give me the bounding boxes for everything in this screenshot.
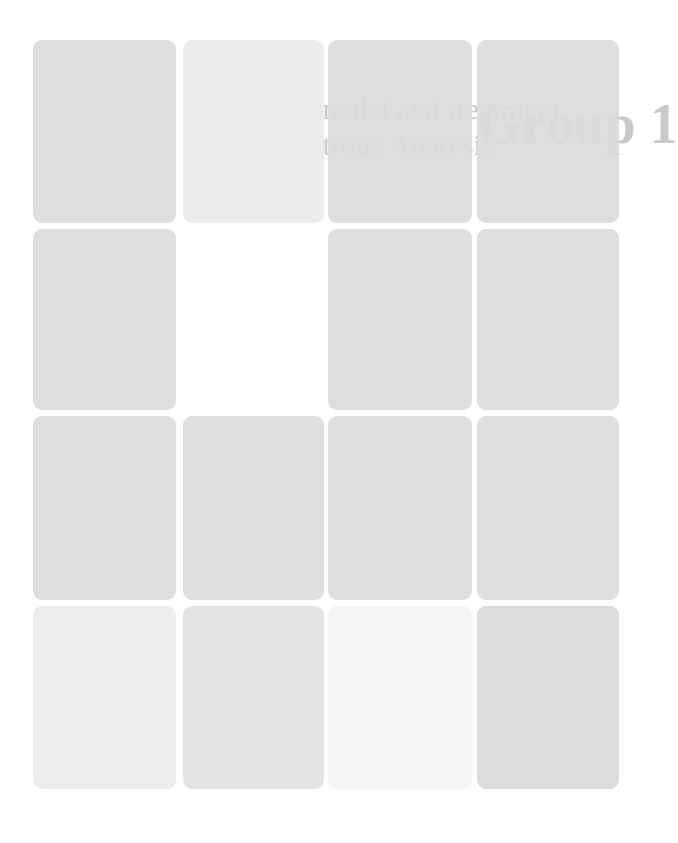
tile-r4-c4 — [477, 606, 619, 789]
tile-r2-c2 — [183, 229, 324, 410]
tile-r1-c4 — [477, 40, 619, 223]
tile-r2-c1 — [33, 229, 176, 410]
tile-r3-c1 — [33, 416, 176, 600]
tile-r4-c3 — [328, 606, 472, 789]
tile-r4-c2 — [183, 606, 324, 789]
tile-r3-c4 — [477, 416, 619, 600]
tile-r1-c1 — [33, 40, 176, 223]
tile-r2-c3 — [328, 229, 472, 410]
tile-r3-c2 — [183, 416, 324, 600]
tile-r2-c4 — [477, 229, 619, 410]
tile-r1-c2 — [183, 40, 324, 223]
tile-r1-c3 — [328, 40, 472, 223]
tile-r3-c3 — [328, 416, 472, 600]
tile-r4-c1 — [33, 606, 176, 789]
